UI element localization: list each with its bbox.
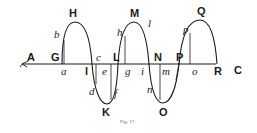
label-b: b	[54, 28, 60, 40]
label-e: e	[102, 65, 107, 77]
label-L: L	[113, 51, 120, 63]
wave-diagram: A G a b H l c e d f K L h M l g i N m n …	[0, 0, 257, 133]
crest-M	[118, 22, 149, 64]
label-l-left: l	[85, 65, 88, 77]
label-C: C	[234, 64, 242, 76]
label-m: m	[162, 65, 170, 77]
label-P: P	[176, 51, 183, 63]
label-f: f	[114, 87, 119, 99]
figure-caption: Fig. 17.	[120, 119, 135, 124]
label-K: K	[102, 106, 110, 118]
label-Q: Q	[197, 5, 206, 17]
label-O: O	[159, 106, 168, 118]
label-i: i	[141, 65, 144, 77]
label-N: N	[154, 51, 162, 63]
label-G: G	[51, 51, 60, 63]
label-p: p	[182, 23, 189, 35]
label-c: c	[96, 51, 101, 63]
label-R: R	[214, 65, 222, 77]
label-o: o	[192, 65, 198, 77]
crest-H	[62, 22, 92, 64]
label-a: a	[61, 65, 67, 77]
label-A: A	[27, 51, 35, 63]
label-n: n	[147, 83, 153, 95]
label-l-right: l	[148, 17, 151, 29]
label-M: M	[130, 7, 139, 19]
label-H: H	[69, 7, 77, 19]
label-h: h	[117, 26, 123, 38]
label-g: g	[125, 65, 131, 77]
label-d: d	[89, 85, 95, 97]
